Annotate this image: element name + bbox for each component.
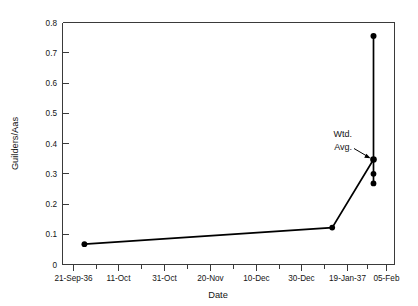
y-tick-label: 0.5 — [46, 109, 58, 118]
data-point-marker-low — [371, 181, 377, 187]
x-axis-major-ticks — [74, 265, 387, 271]
x-axis-title: Date — [208, 290, 228, 300]
data-point-marker — [329, 225, 335, 231]
y-tick-label: 0.4 — [46, 140, 58, 149]
series-price-path — [84, 160, 373, 245]
x-tick-label: 30-Dec — [288, 274, 314, 283]
y-tick-label: 0.7 — [46, 49, 58, 58]
x-axis-tick-labels: 21-Sep-36 11-Oct 31-Oct 20-Nov 10-Dec 30… — [54, 274, 400, 283]
y-tick-label: 0.3 — [46, 170, 58, 179]
x-tick-label: 21-Sep-36 — [54, 274, 93, 283]
data-point-marker-high — [371, 33, 377, 39]
x-axis-minor-ticks — [96, 265, 367, 269]
data-point-marker-mid-low — [371, 171, 377, 177]
annotation-wtd-avg: Wtd. Avg. — [333, 129, 370, 158]
series-markers — [82, 33, 377, 247]
y-axis-tick-labels: 0.8 0.7 0.6 0.5 0.4 0.3 0.2 0.1 0 — [46, 19, 58, 270]
x-tick-label: 20-Nov — [197, 274, 224, 283]
x-tick-label: 05-Feb — [374, 274, 400, 283]
x-tick-label: 10-Dec — [243, 274, 269, 283]
chart-container: 0.8 0.7 0.6 0.5 0.4 0.3 0.2 0.1 0 — [0, 0, 418, 306]
annotation-line-1: Wtd. — [333, 129, 352, 139]
x-tick-label: 31-Oct — [152, 274, 177, 283]
data-point-marker-wtd-avg — [370, 156, 377, 163]
annotation-line-2: Avg. — [334, 142, 352, 152]
y-tick-label: 0.6 — [46, 79, 58, 88]
data-point-marker — [82, 241, 88, 247]
x-tick-label: 19-Jan-37 — [329, 274, 366, 283]
y-tick-label: 0.8 — [46, 19, 58, 28]
series-line-path — [84, 160, 373, 245]
y-axis-title: Guilders/Aas — [10, 117, 20, 171]
y-axis-ticks — [63, 23, 69, 265]
y-tick-label: 0.1 — [46, 230, 58, 239]
y-tick-label: 0.2 — [46, 200, 58, 209]
line-chart: 0.8 0.7 0.6 0.5 0.4 0.3 0.2 0.1 0 — [0, 0, 418, 306]
y-tick-label: 0 — [52, 261, 57, 270]
x-tick-label: 11-Oct — [107, 274, 132, 283]
